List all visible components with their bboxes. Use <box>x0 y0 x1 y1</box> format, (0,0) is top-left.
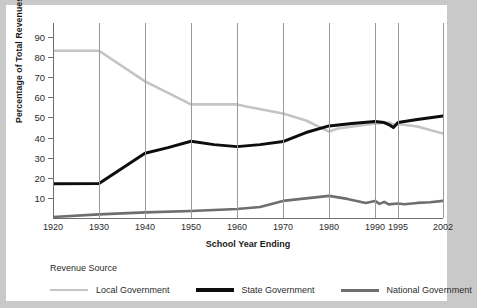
y-tick-label-10: 10 <box>34 192 45 203</box>
y-tick-label-30: 30 <box>34 152 45 163</box>
series-lines <box>53 23 443 218</box>
y-axis-title: Percentage of Total Revenues <box>14 0 24 123</box>
x-tick-label-2002: 2002 <box>433 222 453 232</box>
series-line-national-government <box>53 196 443 217</box>
y-tick-label-80: 80 <box>34 52 45 63</box>
x-tick-label-1930: 1930 <box>89 222 109 232</box>
y-tick-40 <box>48 138 53 139</box>
y-tick-30 <box>48 158 53 159</box>
x-axis-title: School Year Ending <box>53 239 443 249</box>
x-tick-label-1940: 1940 <box>135 222 155 232</box>
legend-label: State Government <box>242 285 315 295</box>
y-tick-label-70: 70 <box>34 72 45 83</box>
y-tick-60 <box>48 97 53 98</box>
chart-legend: Local GovernmentState GovernmentNational… <box>50 285 477 295</box>
y-tick-90 <box>48 37 53 38</box>
x-tick-label-1995: 1995 <box>388 222 408 232</box>
x-tick-label-1970: 1970 <box>273 222 293 232</box>
x-tick-1940 <box>145 23 146 218</box>
y-tick-70 <box>48 77 53 78</box>
x-tick-1995 <box>398 23 399 218</box>
plot-area: 102030405060708090 192019301940195019601… <box>53 23 443 218</box>
legend-item-national-government[interactable]: National Government <box>341 285 472 295</box>
x-tick-1970 <box>283 23 284 218</box>
y-tick-label-90: 90 <box>34 32 45 43</box>
legend-swatch-icon <box>196 288 234 292</box>
y-tick-20 <box>48 178 53 179</box>
x-tick-label-1950: 1950 <box>181 222 201 232</box>
x-tick-1960 <box>237 23 238 218</box>
chart-figure: Percentage of Total Revenues 10203040506… <box>6 5 447 301</box>
y-tick-label-20: 20 <box>34 172 45 183</box>
y-tick-50 <box>48 117 53 118</box>
x-axis-line <box>53 218 443 219</box>
y-tick-10 <box>48 198 53 199</box>
x-tick-label-1990: 1990 <box>365 222 385 232</box>
y-axis-line <box>53 23 54 218</box>
x-tick-label-1980: 1980 <box>319 222 339 232</box>
x-tick-label-1960: 1960 <box>227 222 247 232</box>
series-line-state-government <box>53 116 443 184</box>
x-tick-label-1920: 1920 <box>43 222 63 232</box>
y-tick-label-40: 40 <box>34 132 45 143</box>
legend-label: National Government <box>387 285 472 295</box>
x-tick-1990 <box>375 23 376 218</box>
legend-item-state-government[interactable]: State Government <box>196 285 315 295</box>
legend-label: Local Government <box>96 285 170 295</box>
y-tick-80 <box>48 57 53 58</box>
x-tick-1980 <box>329 23 330 218</box>
x-tick-1950 <box>191 23 192 218</box>
legend-title: Revenue Source <box>50 263 117 273</box>
y-tick-label-60: 60 <box>34 92 45 103</box>
x-tick-2002 <box>443 23 444 218</box>
x-tick-1930 <box>99 23 100 218</box>
legend-item-local-government[interactable]: Local Government <box>50 285 170 295</box>
y-tick-label-50: 50 <box>34 112 45 123</box>
legend-swatch-icon <box>50 289 88 292</box>
legend-swatch-icon <box>341 289 379 292</box>
